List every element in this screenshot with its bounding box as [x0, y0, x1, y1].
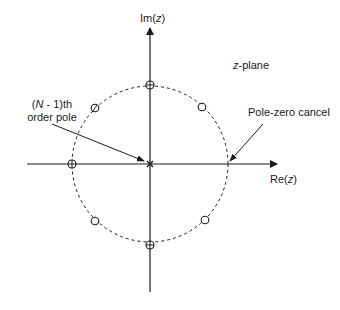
crosshair-marker-left — [68, 160, 76, 168]
plane-label-rest: -plane — [239, 59, 270, 71]
z-plane-diagram: Im(z) z-plane (N - 1)th order pole Pole-… — [0, 0, 340, 310]
crosshair-marker-bottom — [146, 241, 154, 249]
real-label-prefix: Re( — [270, 173, 288, 185]
zero-marker-upper-left — [91, 104, 99, 112]
pole-annotation-label: (N - 1)th order pole — [14, 98, 90, 124]
zero-marker-lower-right — [201, 216, 209, 224]
zero-marker-upper-right — [198, 103, 206, 111]
imaginary-axis-label: Im(z) — [140, 12, 165, 25]
real-label-suffix: ) — [293, 173, 297, 185]
zero-marker-lower-left — [91, 217, 99, 225]
pole-annotation-line2: order pole — [14, 111, 90, 124]
imag-label-suffix: ) — [161, 12, 165, 24]
crosshair-marker-top — [146, 81, 154, 89]
pole-line1-rest: - 1)th — [43, 98, 72, 110]
diagram-graphics — [0, 0, 340, 310]
cancel-annotation-text: Pole-zero cancel — [248, 106, 330, 118]
pole-annotation-arrow — [52, 124, 144, 161]
real-axis-label: Re(z) — [270, 173, 297, 186]
pole-annotation-line1: (N - 1)th — [14, 98, 90, 111]
imag-label-prefix: Im( — [140, 12, 156, 24]
cancel-annotation-label: Pole-zero cancel — [248, 106, 330, 119]
cancel-annotation-arrow — [230, 124, 263, 161]
plane-label: z-plane — [233, 59, 269, 72]
